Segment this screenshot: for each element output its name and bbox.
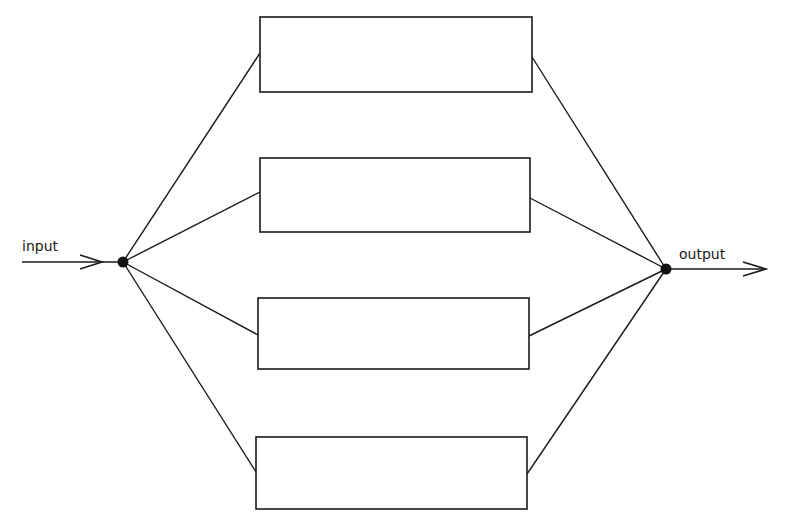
input-connection-2 [123,192,260,262]
connections [123,53,666,474]
input-connection-1 [123,53,260,262]
output-junction-node [661,264,672,275]
input-connection-3 [123,262,258,335]
blocks [256,17,532,509]
output-connection-1 [532,57,666,269]
block-3 [258,298,529,369]
input-arrow [22,255,123,269]
block-4 [256,437,527,509]
output-label: output [679,246,726,262]
input-junction-node [118,257,129,268]
output-connection-2 [530,198,666,269]
parallel-block-diagram: input output [0,0,785,532]
output-connection-3 [529,269,666,336]
output-arrow [666,262,766,276]
output-connection-4 [527,269,666,474]
input-connection-4 [123,262,256,472]
block-1 [260,17,532,92]
input-label: input [22,238,59,254]
block-2 [260,158,530,232]
